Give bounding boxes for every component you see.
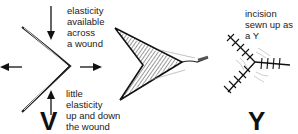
label-elasticity-up-down: little elasticity up and down the wound — [66, 88, 120, 132]
v-wound-shape — [22, 27, 70, 112]
label-incision-y: incision sewn up as a Y — [245, 8, 293, 41]
arrow-down-icon — [47, 6, 55, 40]
label-elasticity-across: elasticity available across a wound — [67, 5, 105, 49]
arrow-left-icon — [0, 63, 22, 71]
y-suture-shape — [224, 34, 290, 93]
v-flap-shape — [115, 28, 208, 100]
arrow-right-icon — [80, 63, 102, 71]
letter-v: V — [40, 108, 57, 134]
letter-y: Y — [248, 108, 265, 134]
